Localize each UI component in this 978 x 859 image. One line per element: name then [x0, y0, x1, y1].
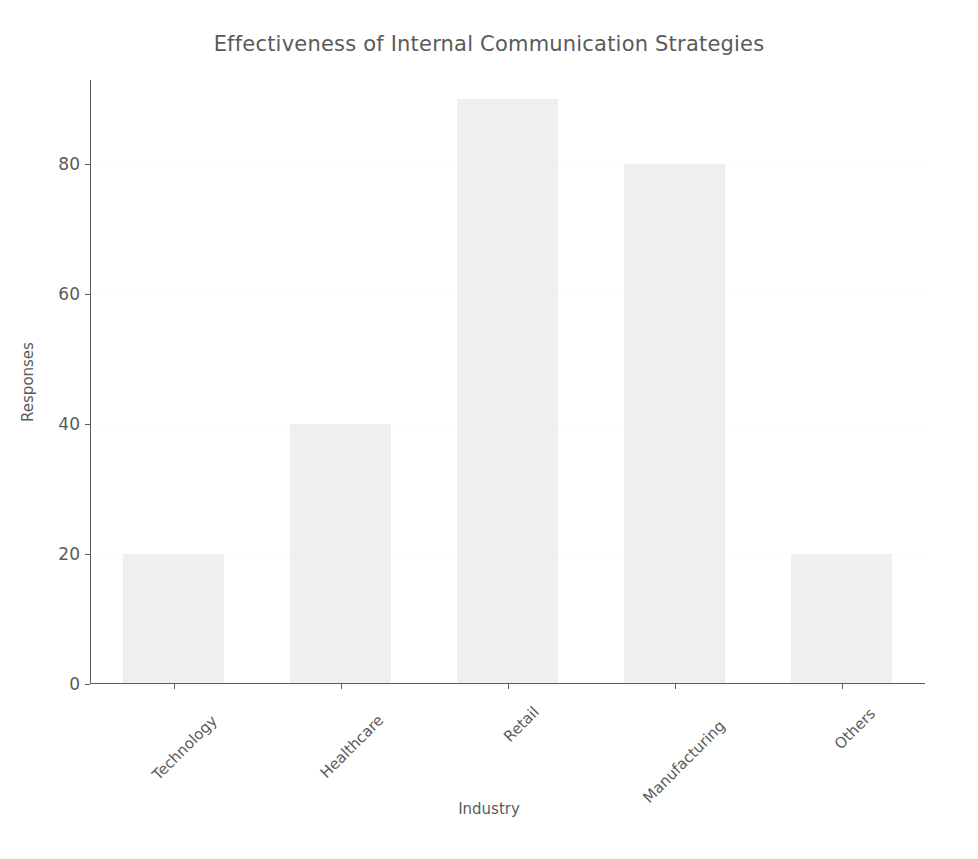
x-axis-tick-label: Healthcare: [324, 684, 395, 755]
bar: [457, 99, 557, 684]
x-axis-tick-label: Others: [831, 684, 879, 732]
x-axis-tick-label-text: Healthcare: [316, 711, 387, 782]
y-axis-tick-label: 60: [58, 284, 80, 304]
y-axis-spine: [90, 80, 91, 684]
y-axis-tick-mark: [85, 684, 90, 685]
y-axis-tick-label: 20: [58, 544, 80, 564]
x-axis-tick-label-text: Technology: [148, 712, 220, 784]
x-axis-title: Industry: [0, 800, 978, 818]
y-axis-tick-label: 0: [69, 674, 80, 694]
bar: [290, 424, 390, 684]
chart-figure: Effectiveness of Internal Communication …: [0, 0, 978, 859]
chart-title: Effectiveness of Internal Communication …: [0, 32, 978, 56]
y-axis-tick-label: 80: [58, 154, 80, 174]
x-axis-tick-label-text: Others: [830, 705, 878, 753]
x-axis-tick-label-text: Retail: [500, 703, 543, 746]
plot-area: 020406080 TechnologyHealthcareRetailManu…: [90, 80, 925, 684]
x-axis-tick-label-text: Manufacturing: [639, 717, 729, 807]
x-axis-spine: [90, 683, 925, 684]
bar: [791, 554, 891, 684]
x-axis-tick-label: Retail: [499, 684, 542, 727]
y-axis-tick-label: 40: [58, 414, 80, 434]
x-axis-tick-mark: [174, 684, 175, 689]
x-axis-tick-mark: [508, 684, 509, 689]
x-axis-tick-label: Technology: [156, 684, 228, 756]
y-axis-title-container: Responses: [0, 80, 40, 684]
x-axis-tick-label: Manufacturing: [652, 684, 742, 774]
y-axis-title: Responses: [18, 80, 38, 684]
x-axis-tick-mark: [842, 684, 843, 689]
x-axis-tick-mark: [341, 684, 342, 689]
x-axis-tick-mark: [675, 684, 676, 689]
bar: [624, 164, 724, 684]
bar: [123, 554, 223, 684]
